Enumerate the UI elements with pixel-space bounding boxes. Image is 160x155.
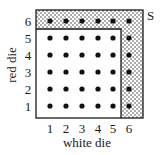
outcome-dots	[47, 18, 131, 108]
outcome-dot	[47, 69, 52, 74]
outcome-dot	[95, 69, 100, 74]
outcome-dot	[126, 52, 131, 57]
outcome-dot	[63, 52, 68, 57]
outcome-dot	[47, 18, 52, 23]
dice-sample-space-diagram: 123456 123456 white die red die S	[0, 0, 160, 155]
outcome-dot	[126, 86, 131, 91]
outcome-dot	[79, 35, 84, 40]
red-die-tick-labels: 123456	[25, 14, 32, 114]
outcome-dot	[47, 86, 52, 91]
event-s-shaded-region	[36, 10, 143, 118]
event-s-label: S	[147, 8, 154, 23]
x-axis-title: white die	[63, 135, 111, 150]
red-die-tick: 3	[25, 65, 32, 80]
outcome-dot	[110, 18, 115, 23]
white-die-tick: 6	[126, 121, 133, 136]
outcome-dot	[95, 18, 100, 23]
outcome-dot	[63, 103, 68, 108]
white-die-tick-labels: 123456	[47, 121, 133, 136]
outcome-dot	[63, 18, 68, 23]
outcome-dot	[95, 52, 100, 57]
outcome-dot	[47, 35, 52, 40]
outcome-dot	[79, 86, 84, 91]
outcome-dot	[126, 69, 131, 74]
outcome-dot	[79, 103, 84, 108]
y-axis-title: red die	[4, 47, 19, 83]
outcome-dot	[110, 103, 115, 108]
white-die-tick: 5	[110, 121, 117, 136]
outcome-dot	[110, 86, 115, 91]
outcome-dot	[126, 18, 131, 23]
white-die-tick: 3	[79, 121, 86, 136]
outcome-dot	[126, 35, 131, 40]
red-die-tick: 5	[25, 31, 32, 46]
outcome-dot	[95, 86, 100, 91]
outcome-dot	[63, 86, 68, 91]
outcome-dot	[95, 103, 100, 108]
outcome-dot	[47, 52, 52, 57]
outcome-dot	[47, 103, 52, 108]
outcome-dot	[63, 35, 68, 40]
outcome-dot	[126, 103, 131, 108]
red-die-tick: 1	[25, 99, 32, 114]
outcome-dot	[110, 69, 115, 74]
outcome-dot	[79, 18, 84, 23]
red-die-tick: 6	[25, 14, 32, 29]
white-die-tick: 2	[63, 121, 70, 136]
outcome-dot	[79, 69, 84, 74]
red-die-tick: 2	[25, 82, 32, 97]
white-die-tick: 4	[95, 121, 102, 136]
outcome-dot	[110, 52, 115, 57]
outcome-dot	[63, 69, 68, 74]
red-die-tick: 4	[25, 48, 32, 63]
outcome-dot	[110, 35, 115, 40]
white-die-tick: 1	[47, 121, 54, 136]
outcome-dot	[95, 35, 100, 40]
outcome-dot	[79, 52, 84, 57]
